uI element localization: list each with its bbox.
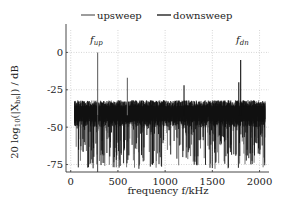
y-tick-label: -75 [47,159,63,170]
y-label-sub: 10 [14,118,22,127]
legend-label-downsweep: downsweep [173,10,232,21]
y-tick-label: -50 [47,122,63,133]
y-tick-label: -25 [47,84,63,95]
annotation-f-dn-sub: dn [240,39,249,47]
annotation-f-up: fup [89,34,103,47]
spectrum-chart: 05001000150020000-25-50-75 upsweep downs… [0,0,285,211]
legend: upsweep downsweep [81,10,232,21]
legend-label-upsweep: upsweep [97,10,142,21]
y-label-mid: (|X [9,103,21,118]
annotation-f-up-sub: up [94,39,104,47]
noise-floor [74,100,265,169]
annotation-f-dn: fdn [235,34,249,47]
x-tick-label: 500 [108,176,127,187]
y-tick-label: 0 [57,47,63,58]
noise-band [74,106,265,121]
y-label-suffix: |) / dB [9,65,21,96]
x-tick-label: 2000 [247,176,272,187]
y-label-prefix: 20 log [9,127,20,159]
y-axis-label: 20 log10(|Xbs|) / dB [9,65,22,159]
x-axis-label: frequency f/kHz [127,185,208,196]
x-tick-label: 0 [68,176,74,187]
